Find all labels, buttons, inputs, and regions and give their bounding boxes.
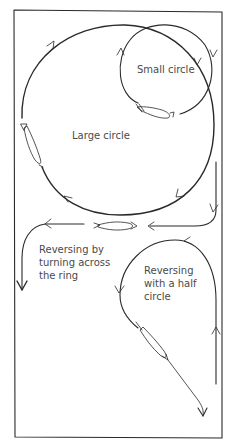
label-reverse-half-line2: with a half xyxy=(144,277,196,290)
reverse-across-path-right xyxy=(150,162,216,226)
ring-diagram: Small circle Large circle Reversing by t… xyxy=(0,0,235,448)
horse-half-circle xyxy=(136,322,168,360)
large-circle-arrow-bottom-right xyxy=(176,189,184,197)
label-large-circle: Large circle xyxy=(72,129,130,142)
horse-large-circle xyxy=(21,124,43,167)
label-reverse-half-line1: Reversing xyxy=(144,264,194,277)
diagram-canvas xyxy=(0,0,235,448)
label-reverse-across-line3: the ring xyxy=(39,269,78,282)
label-small-circle: Small circle xyxy=(137,63,195,76)
small-circle-arrow-right xyxy=(210,50,217,57)
horse-small-circle xyxy=(136,104,174,118)
reverse-across-arrow-down xyxy=(210,204,218,212)
half-circle-path xyxy=(120,240,216,384)
large-circle-arrow-top-left xyxy=(47,41,54,49)
label-reverse-across-line1: Reversing by xyxy=(39,243,104,256)
label-reverse-across-line2: turning across xyxy=(39,256,110,269)
label-reverse-half-line3: circle xyxy=(144,290,171,303)
half-circle-arrow-left xyxy=(115,286,124,293)
horse-across-ring xyxy=(94,222,137,230)
